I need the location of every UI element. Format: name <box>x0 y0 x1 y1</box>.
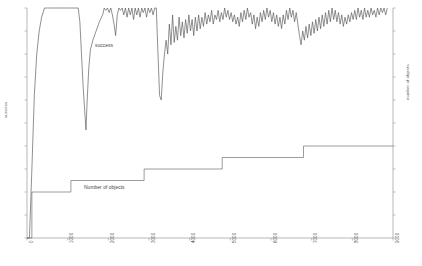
left-axis-title: success <box>3 102 8 118</box>
x-axis-tick-labels: 0100020003000400050006000700080009000 <box>0 0 422 266</box>
right-axis-title: number of objects <box>405 64 410 100</box>
chart-container: 00.10.20.30.40.50.60.70.80.91 0246810121… <box>0 0 422 266</box>
x-tick-label: 4000 <box>191 233 196 243</box>
x-tick-label: 6000 <box>273 233 278 243</box>
x-tick-label: 5000 <box>232 233 237 243</box>
x-tick-label: 1000 <box>69 233 74 243</box>
annotation-number-of-objects: Number of objects <box>84 184 125 190</box>
x-tick-label: 9000 <box>395 233 400 243</box>
x-tick-label: 7000 <box>313 233 318 243</box>
x-tick-label: 3000 <box>151 233 156 243</box>
annotation-success: success <box>95 42 113 48</box>
x-tick-label: 2000 <box>110 233 115 243</box>
x-tick-label: 0 <box>29 240 34 243</box>
x-tick-label: 8000 <box>354 233 359 243</box>
